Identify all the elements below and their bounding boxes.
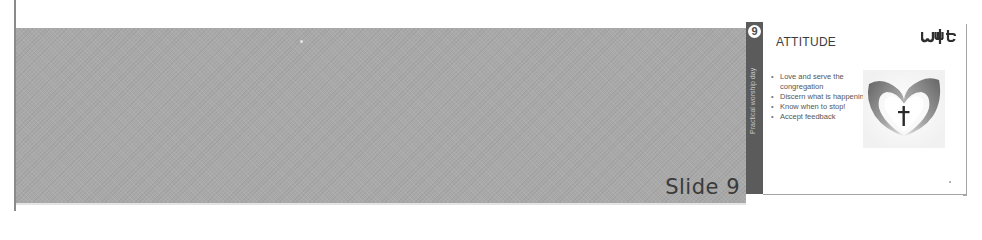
slide-notes-band: Slide 9 bbox=[16, 28, 746, 203]
slide-number-badge: 9 bbox=[748, 25, 761, 38]
band-bottom-edge bbox=[16, 203, 746, 205]
slide-number-label: Slide 9 bbox=[665, 175, 740, 199]
bullet-item: Know when to stop! bbox=[771, 102, 871, 112]
speck bbox=[300, 40, 303, 43]
slide-sidebar-text: Practical worship day bbox=[749, 44, 760, 134]
bullet-item: Love and serve the congregation bbox=[771, 72, 871, 91]
wlt-logo-icon bbox=[921, 28, 961, 48]
bullet-item: Discern what is happening bbox=[771, 92, 871, 102]
slide-title: ATTITUDE bbox=[776, 35, 836, 49]
slide-sidebar: 9 Practical worship day bbox=[746, 22, 763, 194]
bullet-item: Accept feedback bbox=[771, 112, 871, 122]
slide-footer-mark bbox=[949, 181, 951, 183]
slide-bullet-list: Love and serve the congregation Discern … bbox=[771, 72, 871, 122]
hands-heart-cross-icon bbox=[863, 70, 945, 148]
slide-thumbnail[interactable]: 9 Practical worship day ATTITUDE Love an… bbox=[746, 22, 966, 194]
